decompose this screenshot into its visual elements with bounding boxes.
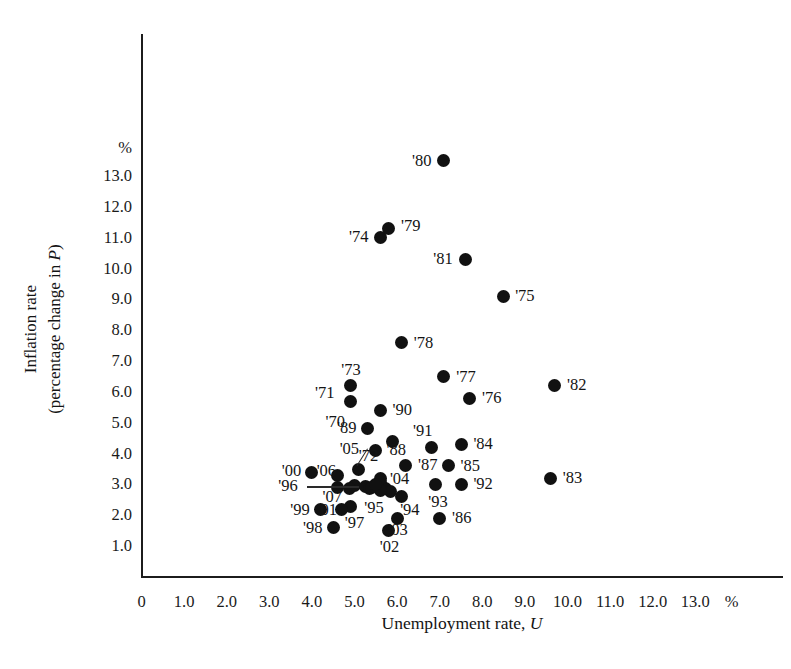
x-axis-unit-label: %	[725, 594, 739, 611]
x-tick-12-0: 12.0	[638, 594, 667, 611]
data-point-y92	[455, 478, 468, 491]
data-point-y83	[544, 472, 557, 485]
x-tick-9-0: 9.0	[515, 594, 536, 611]
data-point-label-y06: '06	[317, 463, 336, 480]
y-tick-9-0: 9.0	[74, 291, 132, 308]
data-point-y98	[327, 521, 340, 534]
x-tick-1-0: 1.0	[174, 594, 195, 611]
x-tick-0: 0	[137, 594, 145, 611]
x-tick-10-0: 10.0	[553, 594, 582, 611]
data-point-label-y95: '95	[364, 500, 383, 517]
y-axis-title-line1: Inflation rate	[21, 285, 40, 373]
data-point-y79	[382, 222, 395, 235]
data-point-label-y77: '77	[456, 369, 475, 386]
y-tick-7-0: 7.0	[74, 353, 132, 370]
data-point-label-y79: '79	[401, 218, 420, 235]
data-point-y80	[437, 154, 450, 167]
data-point-y89	[361, 422, 374, 435]
x-tick-7-0: 7.0	[429, 594, 450, 611]
y-tick-2-0: 2.0	[74, 507, 132, 524]
data-point-cluster-5	[343, 482, 356, 495]
data-point-label-y85: '85	[461, 458, 480, 475]
y-tick-12-0: 12.0	[74, 199, 132, 216]
data-point-label-y04: '04	[390, 471, 409, 488]
y-tick-13-0: 13.0	[74, 168, 132, 185]
data-point-label-y97: '97	[345, 515, 364, 532]
data-point-y70	[344, 395, 357, 408]
data-point-y76	[463, 392, 476, 405]
x-tick-5-0: 5.0	[344, 594, 365, 611]
data-point-label-y07: '07	[323, 489, 342, 506]
data-point-label-y00: '00	[282, 463, 301, 480]
data-point-y75	[497, 290, 510, 303]
x-axis-line	[141, 576, 783, 578]
data-point-label-y88: '88	[386, 442, 405, 459]
data-point-y91	[425, 441, 438, 454]
y-tick-4-0: 4.0	[74, 445, 132, 462]
x-tick-11-0: 11.0	[596, 594, 624, 611]
y-tick-6-0: 6.0	[74, 384, 132, 401]
data-point-label-y87: '87	[418, 457, 437, 474]
leader-line-y96	[307, 486, 359, 487]
data-point-label-y98: '98	[303, 520, 322, 537]
x-tick-2-0: 2.0	[216, 594, 237, 611]
data-point-label-y76: '76	[482, 390, 501, 407]
data-point-label-y75: '75	[515, 287, 534, 304]
data-point-label-y71: '71	[315, 385, 334, 402]
x-tick-13-0: 13.0	[681, 594, 710, 611]
data-point-y86	[433, 512, 446, 525]
data-point-y77	[437, 370, 450, 383]
y-tick-11-0: 11.0	[74, 229, 132, 246]
phillips-curve-scatter-figure: 1.02.03.04.05.06.07.08.09.010.011.012.01…	[0, 0, 791, 669]
data-point-label-y05: '05	[340, 440, 359, 457]
data-point-label-y93: '93	[428, 493, 447, 510]
data-point-y82	[548, 379, 561, 392]
data-point-label-y91: '91	[413, 423, 432, 440]
data-point-y78	[395, 336, 408, 349]
y-axis-title-line2: (percentage change in P)	[45, 244, 64, 413]
data-point-y81	[459, 253, 472, 266]
y-axis-line	[141, 34, 143, 578]
y-tick-10-0: 10.0	[74, 260, 132, 277]
x-tick-3-0: 3.0	[259, 594, 280, 611]
data-point-y90	[374, 404, 387, 417]
x-tick-6-0: 6.0	[387, 594, 408, 611]
data-point-label-y80: '80	[412, 153, 431, 170]
data-point-label-y89: '89	[337, 420, 356, 437]
x-axis-title-text: Unemployment rate, U	[382, 613, 543, 633]
x-axis-title: Unemployment rate, U	[141, 613, 783, 634]
data-point-label-y96: '96	[278, 478, 297, 495]
y-tick-8-0: 8.0	[74, 322, 132, 339]
x-tick-4-0: 4.0	[302, 594, 323, 611]
data-point-y73	[344, 379, 357, 392]
data-point-label-y81: '81	[433, 250, 452, 267]
data-point-label-y92: '92	[473, 476, 492, 493]
data-point-label-y73: '73	[341, 361, 360, 378]
data-point-label-y84: '84	[473, 436, 492, 453]
x-tick-8-0: 8.0	[472, 594, 493, 611]
data-point-label-y94: '94	[400, 501, 419, 518]
data-point-y93	[429, 478, 442, 491]
y-tick-3-0: 3.0	[74, 476, 132, 493]
data-point-y85	[442, 459, 455, 472]
data-point-label-y02: '02	[380, 539, 399, 556]
data-point-y84	[455, 438, 468, 451]
data-point-label-y78: '78	[414, 334, 433, 351]
y-tick-5-0: 5.0	[74, 415, 132, 432]
y-axis-title: Inflation rate (percentage change in P)	[19, 189, 67, 469]
y-axis-unit-label: %	[74, 140, 132, 157]
data-point-label-y90: '90	[392, 402, 411, 419]
data-point-label-y03: '03	[388, 522, 407, 539]
data-point-label-y99: '99	[290, 501, 309, 518]
data-point-label-y82: '82	[567, 377, 586, 394]
data-point-label-y74: '74	[349, 229, 368, 246]
data-point-label-y83: '83	[563, 469, 582, 486]
data-point-label-y86: '86	[452, 510, 471, 527]
y-tick-1-0: 1.0	[74, 538, 132, 555]
